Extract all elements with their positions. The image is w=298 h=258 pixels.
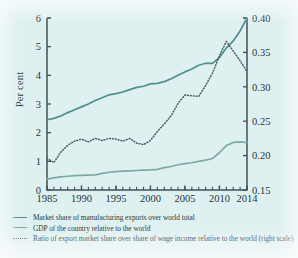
x-axis-tick-label: 2005 xyxy=(174,193,195,204)
solid-line-marker-icon xyxy=(12,224,28,232)
right-axis-tick-label: 0.30 xyxy=(252,82,270,93)
x-axis-tick-label: 2010 xyxy=(209,193,230,204)
left-axis-tick-label: 3 xyxy=(36,99,41,110)
plot-area: 01234560.150.200.250.300.350.40198519901… xyxy=(0,0,298,212)
series-line-2 xyxy=(47,142,247,179)
chart-svg: 01234560.150.200.250.300.350.40198519901… xyxy=(0,0,298,212)
right-axis-tick-label: 0.35 xyxy=(252,47,270,58)
legend-label: Ratio of export market share over share … xyxy=(33,234,293,243)
x-axis-tick-label: 2014 xyxy=(237,193,259,204)
left-axis-tick-label: 6 xyxy=(36,13,41,24)
legend-label: Market share of manufacturing exports ov… xyxy=(33,213,195,222)
dotted-line-marker-icon xyxy=(12,235,28,243)
left-axis-title: Per cent xyxy=(14,55,25,125)
legend-label: GDP of the country relative to the world xyxy=(33,224,150,233)
right-axis-tick-label: 0.20 xyxy=(252,150,270,161)
solid-line-marker-icon xyxy=(12,214,28,222)
legend-item-gdp: GDP of the country relative to the world xyxy=(12,224,298,233)
x-axis-tick-label: 2000 xyxy=(140,193,161,204)
right-axis-tick-label: 0.25 xyxy=(252,116,270,127)
legend-item-ratio: Ratio of export market share over share … xyxy=(12,234,298,243)
x-axis-tick-label: 1995 xyxy=(105,193,126,204)
left-axis-tick-label: 2 xyxy=(36,127,41,138)
left-axis-tick-label: 1 xyxy=(36,156,41,167)
series-line-1 xyxy=(47,18,247,120)
left-axis-tick-label: 4 xyxy=(36,70,42,81)
chart-legend: Market share of manufacturing exports ov… xyxy=(12,213,298,245)
legend-item-market-share: Market share of manufacturing exports ov… xyxy=(12,213,298,222)
figure-panel: 01234560.150.200.250.300.350.40198519901… xyxy=(0,0,298,258)
x-axis-tick-label: 1990 xyxy=(71,193,92,204)
right-axis-tick-label: 0.40 xyxy=(252,13,270,24)
x-axis-tick-label: 1985 xyxy=(37,193,58,204)
left-axis-tick-label: 5 xyxy=(36,41,41,52)
axis-frame xyxy=(47,18,247,190)
